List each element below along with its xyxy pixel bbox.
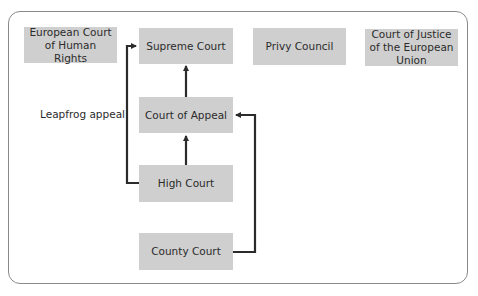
leapfrog-appeal-label: Leapfrog appeal — [40, 108, 125, 120]
node-high-court: High Court — [139, 165, 233, 202]
node-privy-council: Privy Council — [253, 28, 346, 65]
node-court-of-appeal: Court of Appeal — [139, 97, 233, 133]
node-supreme-court: Supreme Court — [139, 28, 233, 64]
node-echr: European Court of Human Rights — [24, 27, 117, 63]
node-cjeu: Court of Justice of the European Union — [365, 29, 458, 66]
node-county-court: County Court — [139, 233, 233, 270]
